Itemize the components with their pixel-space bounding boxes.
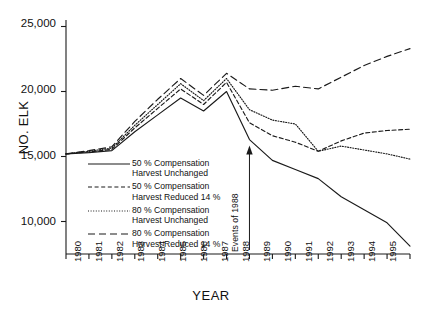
legend-label-1-line1: 50 % Compensation <box>132 181 209 191</box>
legend-label-3-line2: Harvest Reduced 14 % <box>132 239 220 249</box>
annotation-arrow-head-0 <box>246 146 252 155</box>
legend-label-3-line1: 80 % Compensation <box>132 228 209 238</box>
y-axis-ticks <box>61 27 66 222</box>
plot-area <box>0 0 422 312</box>
series-line-1 <box>66 82 410 153</box>
series-line-2 <box>66 79 410 160</box>
legend-swatch-dashed-long <box>88 228 132 238</box>
x-axis-ticks <box>66 254 410 259</box>
annotation-events-of-1988: Events of 1988 <box>230 193 240 252</box>
legend-label-2-line2: Harvest Unchanged <box>132 215 208 225</box>
legend-item-1: 50 % Compensation Harvest Reduced 14 % <box>88 181 220 202</box>
legend-label-0-line2: Harvest Unchanged <box>132 168 208 178</box>
legend-item-0: 50 % Compensation Harvest Unchanged <box>88 158 220 179</box>
legend-swatch-solid <box>88 158 132 168</box>
chart-legend: 50 % Compensation Harvest Unchanged 50 %… <box>88 158 220 252</box>
legend-item-2: 80 % Compensation Harvest Unchanged <box>88 205 220 226</box>
legend-item-3: 80 % Compensation Harvest Reduced 14 % <box>88 228 220 249</box>
legend-label-0-line1: 50 % Compensation <box>132 158 209 168</box>
annotation-layer <box>246 146 252 250</box>
legend-label-1-line2: Harvest Reduced 14 % <box>132 192 220 202</box>
legend-swatch-dashed-short <box>88 181 132 191</box>
legend-swatch-dotted <box>88 205 132 215</box>
legend-label-2-line1: 80 % Compensation <box>132 205 209 215</box>
series-line-3 <box>66 49 410 154</box>
elk-population-chart: NO. ELK YEAR 25,000 20,000 15,000 10,000… <box>0 0 422 312</box>
